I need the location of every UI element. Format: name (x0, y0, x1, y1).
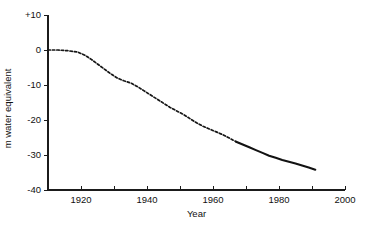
x-tick-label: 2000 (334, 194, 355, 205)
mass-balance-line-chart: +100-10-20-30-40 19201940196019802000 Ye… (0, 0, 373, 234)
series-measured-solid (236, 142, 315, 170)
axes-group (48, 15, 345, 190)
y-tick-label: 0 (36, 44, 41, 55)
y-tick-label: -30 (27, 149, 41, 160)
x-axis-tick-labels: 19201940196019802000 (70, 194, 355, 205)
series-group (48, 50, 315, 170)
x-tick-label: 1980 (268, 194, 289, 205)
y-axis-ticks (44, 15, 48, 190)
x-tick-label: 1960 (202, 194, 223, 205)
y-axis-tick-labels: +100-10-20-30-40 (25, 9, 41, 195)
y-tick-label: -10 (27, 79, 41, 90)
x-tick-label: 1920 (70, 194, 91, 205)
x-tick-label: 1940 (136, 194, 157, 205)
x-axis-title: Year (187, 208, 206, 219)
y-tick-label: -20 (27, 114, 41, 125)
series-reconstructed-dashed (48, 50, 236, 142)
y-axis-title: m water equivalent (2, 68, 13, 148)
chart-figure: +100-10-20-30-40 19201940196019802000 Ye… (0, 0, 373, 234)
y-tick-label: +10 (25, 9, 41, 20)
y-tick-label: -40 (27, 184, 41, 195)
x-axis-ticks (48, 186, 345, 190)
